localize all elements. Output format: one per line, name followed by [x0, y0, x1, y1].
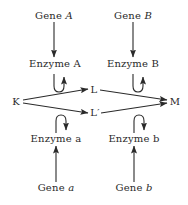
gene-B-symbol: B	[144, 10, 152, 21]
node-L: L	[91, 85, 98, 95]
node-enzyme-B: Enzyme B	[107, 59, 159, 69]
arrow-Lprime-to-M	[101, 103, 167, 113]
gene-B-prefix: Gene	[114, 10, 141, 21]
gene-A-symbol: A	[66, 10, 73, 21]
node-gene-B: Gene B	[114, 11, 152, 21]
gene-a-symbol: a	[68, 182, 74, 193]
arrow-L-to-M	[100, 90, 167, 100]
node-M: M	[170, 97, 180, 107]
catalysis-hook-enzymea	[56, 115, 66, 133]
catalysis-hook-enzymeA	[54, 74, 64, 92]
gene-A-prefix: Gene	[35, 10, 62, 21]
node-L-prime: L′	[90, 108, 99, 118]
catalysis-hook-enzymeB	[133, 74, 143, 92]
gene-b-prefix: Gene	[115, 182, 142, 193]
gene-b-symbol: b	[146, 182, 153, 193]
node-K: K	[12, 97, 20, 107]
node-enzyme-b: Enzyme b	[108, 134, 159, 144]
gene-a-prefix: Gene	[38, 182, 65, 193]
node-gene-A: Gene A	[35, 11, 73, 21]
metabolic-pathway-diagram: Gene A Gene B Enzyme A Enzyme B K L L′ M…	[0, 0, 188, 205]
diagram-arrows	[0, 0, 188, 205]
node-enzyme-A: Enzyme A	[29, 59, 81, 69]
catalysis-hook-enzymeb	[134, 115, 144, 133]
node-gene-b: Gene b	[115, 183, 152, 193]
node-enzyme-a: Enzyme a	[31, 134, 82, 144]
arrow-K-to-Lprime	[23, 103, 88, 113]
node-gene-a: Gene a	[38, 183, 75, 193]
